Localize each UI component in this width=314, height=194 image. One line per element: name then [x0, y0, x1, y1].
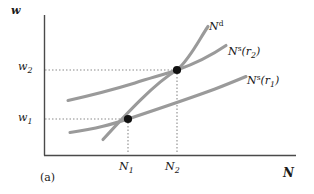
x-tick-n1-base: N: [119, 160, 129, 173]
curve-label-nd-superscript: d: [219, 19, 224, 28]
curve-label-labour-supply-r2: Ns(r2): [228, 46, 260, 57]
equilibrium-point-1: [124, 115, 132, 123]
y-tick-label-w1: w1: [18, 112, 32, 123]
y-tick-w2-base: w: [18, 60, 27, 73]
curve-label-nd-base: N: [209, 20, 219, 33]
y-tick-w1-base: w: [18, 111, 27, 124]
curve-label-labour-demand: Nd: [209, 21, 223, 32]
x-tick-n2-subscript: 2: [175, 166, 180, 175]
curve-labour-demand: [103, 27, 208, 140]
x-tick-label-n2: N2: [165, 161, 180, 172]
curve-label-ns1-base: N: [247, 74, 257, 87]
curve-label-ns1-paren-close: ): [275, 74, 279, 87]
y-tick-w1-subscript: 1: [27, 117, 32, 126]
x-tick-n2-base: N: [165, 160, 175, 173]
x-tick-label-n1: N1: [119, 161, 134, 172]
curve-label-ns2-arg-subscript: 2: [251, 51, 256, 60]
curve-label-labour-supply-r1: Ns(r1): [247, 75, 279, 86]
curve-label-ns1-arg-subscript: 1: [270, 80, 275, 89]
curves-group: [68, 27, 246, 140]
y-tick-w2-subscript: 2: [27, 66, 32, 75]
y-axis-label: w: [11, 5, 20, 16]
x-axis-label: N: [283, 167, 294, 179]
chart-canvas: [0, 0, 314, 194]
x-tick-n1-subscript: 1: [129, 166, 134, 175]
curve-label-ns2-paren-close: ): [256, 45, 260, 58]
y-tick-label-w2: w2: [18, 61, 32, 72]
curve-label-ns1-superscript: s: [257, 73, 261, 82]
curve-label-ns2-superscript: s: [238, 44, 242, 53]
equilibrium-point-2: [173, 66, 181, 74]
labour-market-figure-panel-a: w N w2 w1 N1 N2 Nd Ns(r2) Ns(r1) (a): [0, 0, 314, 194]
curve-label-ns2-base: N: [228, 45, 238, 58]
panel-label: (a): [40, 172, 55, 183]
